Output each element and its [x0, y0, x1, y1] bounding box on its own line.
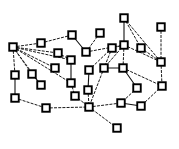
- graph-node[interactable]: [114, 96, 129, 111]
- graph-node-square-icon: [158, 82, 166, 90]
- graph-node[interactable]: [105, 41, 120, 56]
- graph-node-square-icon: [67, 79, 75, 87]
- graph-node[interactable]: [154, 20, 169, 35]
- graph-node[interactable]: [93, 26, 108, 41]
- graph-node-square-icon: [100, 64, 108, 72]
- graph-node-square-icon: [9, 43, 17, 51]
- graph-node[interactable]: [134, 41, 149, 56]
- graph-node-square-icon: [11, 94, 19, 102]
- network-graph-figure: [0, 0, 179, 149]
- graph-node-square-icon: [71, 92, 79, 100]
- graph-node-square-icon: [54, 49, 62, 57]
- graph-node[interactable]: [48, 61, 63, 76]
- graph-node[interactable]: [68, 89, 83, 104]
- graph-node[interactable]: [134, 99, 149, 114]
- graph-node[interactable]: [64, 53, 79, 68]
- graph-node-square-icon: [28, 70, 36, 78]
- graph-node[interactable]: [116, 61, 131, 76]
- graph-node-square-icon: [85, 66, 93, 74]
- graph-node[interactable]: [130, 81, 145, 96]
- graph-node-square-icon: [84, 86, 92, 94]
- network-graph-canvas: [0, 0, 179, 149]
- graph-node-square-icon: [42, 104, 50, 112]
- graph-node[interactable]: [110, 121, 125, 136]
- graph-node-square-icon: [108, 44, 116, 52]
- graph-node-square-icon: [37, 39, 45, 47]
- graph-node[interactable]: [64, 76, 79, 91]
- graph-node-square-icon: [117, 99, 125, 107]
- graph-node-square-icon: [137, 102, 145, 110]
- graph-node-square-icon: [133, 84, 141, 92]
- graph-node-square-icon: [120, 41, 128, 49]
- graph-node[interactable]: [6, 40, 21, 55]
- graph-node[interactable]: [65, 28, 80, 43]
- graph-node[interactable]: [8, 68, 23, 83]
- graph-node[interactable]: [81, 83, 96, 98]
- graph-node[interactable]: [155, 79, 170, 94]
- graph-node[interactable]: [97, 61, 112, 76]
- graph-node-square-icon: [157, 58, 165, 66]
- graph-node-square-icon: [37, 81, 45, 89]
- graph-node[interactable]: [82, 63, 97, 78]
- graph-node-square-icon: [113, 124, 121, 132]
- graph-node-square-icon: [51, 64, 59, 72]
- graph-node-square-icon: [157, 23, 165, 31]
- graph-node[interactable]: [79, 45, 94, 60]
- graph-node[interactable]: [39, 101, 54, 116]
- graph-node[interactable]: [34, 78, 49, 93]
- graph-node[interactable]: [154, 55, 169, 70]
- graph-node-square-icon: [137, 44, 145, 52]
- graph-node-square-icon: [67, 56, 75, 64]
- graph-node-square-icon: [68, 31, 76, 39]
- graph-node-square-icon: [82, 48, 90, 56]
- graph-node[interactable]: [82, 100, 97, 115]
- graph-node-square-icon: [119, 64, 127, 72]
- node-layer: [6, 11, 170, 136]
- graph-node-square-icon: [120, 14, 128, 22]
- graph-node[interactable]: [34, 36, 49, 51]
- graph-node-square-icon: [85, 103, 93, 111]
- graph-node-square-icon: [96, 29, 104, 37]
- graph-node[interactable]: [117, 11, 132, 26]
- graph-node[interactable]: [51, 46, 66, 61]
- graph-node[interactable]: [8, 91, 23, 106]
- graph-node-square-icon: [11, 71, 19, 79]
